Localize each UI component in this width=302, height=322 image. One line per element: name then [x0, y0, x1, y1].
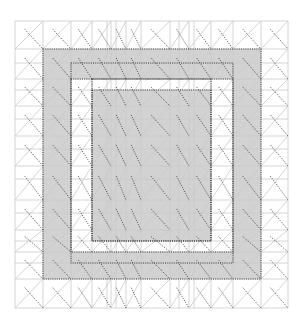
dotted-diagonal	[53, 288, 71, 308]
mesh-diagonal	[15, 79, 43, 106]
dotted-diagonal	[177, 288, 189, 308]
dotted-diagonal	[25, 288, 43, 308]
dotted-diagonal	[151, 288, 170, 308]
dotted-diagonal	[99, 29, 111, 49]
mesh-diagonal	[141, 279, 170, 308]
dotted-diagonal	[197, 29, 211, 49]
mesh-diagonal	[261, 200, 288, 230]
mesh-diagonal	[261, 279, 288, 308]
mesh-diagram	[0, 0, 302, 322]
dotted-diagonal	[270, 176, 288, 200]
mesh-diagonal	[141, 21, 170, 49]
mesh-diagonal	[92, 279, 111, 308]
inner-block-region	[92, 90, 211, 241]
dotted-diagonal	[25, 209, 43, 230]
dotted-diagonal	[270, 237, 288, 252]
dotted-diagonal	[270, 209, 288, 230]
mesh-diagonal	[15, 279, 43, 308]
dotted-diagonal	[25, 115, 43, 136]
dotted-diagonal	[25, 176, 43, 200]
mesh-diagonal	[15, 21, 43, 49]
dotted-diagonal	[219, 29, 233, 49]
mesh-diagonal	[261, 136, 288, 166]
dotted-diagonal	[25, 29, 43, 49]
mesh-diagonal	[15, 252, 43, 279]
dotted-diagonal	[270, 115, 288, 136]
mesh-diagonal	[189, 21, 211, 49]
dotted-diagonal	[219, 288, 233, 308]
mesh-diagonal	[15, 166, 43, 200]
dotted-diagonal	[25, 237, 43, 252]
dotted-diagonal	[25, 58, 43, 79]
mesh-diagonal	[43, 21, 71, 49]
mesh-diagonal	[170, 279, 189, 308]
mesh-diagonal	[71, 21, 92, 49]
dotted-diagonal	[116, 288, 126, 308]
dotted-diagonal	[131, 29, 141, 49]
mesh-diagonal	[261, 106, 288, 136]
mesh-diagonal	[261, 166, 288, 200]
dotted-diagonal	[270, 145, 288, 166]
mesh-diagonal	[233, 21, 261, 49]
dotted-diagonal	[25, 145, 43, 166]
mesh-diagonal	[261, 49, 288, 79]
dotted-diagonal	[53, 29, 71, 49]
dotted-diagonal	[78, 288, 92, 308]
mesh-diagonal	[71, 279, 92, 308]
dotted-diagonal	[78, 29, 92, 49]
mesh-svg	[0, 0, 302, 322]
dotted-diagonal	[197, 288, 211, 308]
dotted-diagonal	[131, 288, 141, 308]
region-fill-layer	[43, 49, 261, 279]
mesh-diagonal	[43, 279, 71, 308]
dotted-diagonal	[177, 29, 189, 49]
mesh-diagonal	[170, 21, 189, 49]
mesh-diagonal	[92, 21, 111, 49]
dotted-diagonal	[270, 58, 288, 79]
dotted-diagonal	[243, 288, 261, 308]
mesh-diagonal	[233, 279, 261, 308]
dotted-diagonal	[116, 29, 126, 49]
dotted-diagonal	[151, 29, 170, 49]
dotted-diagonal	[243, 29, 261, 49]
dotted-diagonal	[270, 29, 288, 49]
dotted-diagonal	[99, 288, 111, 308]
mesh-diagonal	[211, 21, 233, 49]
mesh-diagonal	[261, 21, 288, 49]
dotted-diagonal	[270, 288, 288, 308]
